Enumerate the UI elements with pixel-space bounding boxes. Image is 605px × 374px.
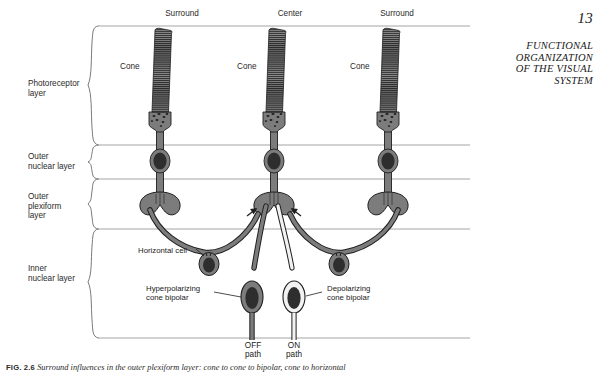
layer-label-outer-nuclear-line-1: Outer [28,152,75,162]
column-label-surround-right: Surround [380,9,414,18]
running-head-line-2: ORGANIZATION [443,52,593,64]
label-hyperpolarizing-line-2: cone bipolar [146,293,200,302]
running-head-line-1: FUNCTIONAL [443,40,593,52]
horizontal-cell-right-process [290,210,398,253]
label-off-path-line-2: path [245,350,261,359]
label-on-path: ON path [286,341,302,360]
layer-label-outer-plexiform-line-3: layer [28,211,61,221]
running-head-line-3: OF THE VISUAL [443,63,593,75]
layer-label-outer-nuclear-line-2: nuclear layer [28,162,75,172]
label-hyperpolarizing-cone-bipolar: Hyperpolarizing cone bipolar [146,284,200,302]
label-depolarizing-cone-bipolar: Depolarizing cone bipolar [327,284,370,302]
cone-right-outer-segment [380,28,400,112]
cone-surround-right [368,28,408,215]
label-on-path-line-2: path [286,350,302,359]
label-on-path-line-1: ON [286,341,302,350]
horizontal-cell-left-nucleus [203,257,215,272]
horizontal-cell-right [290,210,398,276]
layer-label-outer-nuclear: Outer nuclear layer [28,152,75,171]
layer-label-outer-plexiform-line-1: Outer [28,192,61,202]
cone-label-right: Cone [350,62,370,71]
layer-label-inner-nuclear-line-2: nuclear layer [28,274,75,284]
cone-left-inner-segment [149,112,171,132]
cone-right-nucleus [381,152,394,169]
figure-caption-text: Surround influences in the outer plexifo… [37,363,345,372]
label-off-path: OFF path [245,341,261,360]
bipolar-on-depolarizing [278,206,305,340]
figure-caption: FIG. 2.6 Surround influences in the oute… [6,363,596,374]
cone-center-inner-segment [263,112,285,132]
page-number: 13 [577,10,593,27]
cone-left-nucleus [153,152,166,169]
layer-label-photoreceptor-line-1: Photoreceptor [28,79,79,89]
cone-center-nucleus [267,152,280,169]
bipolar-on-nucleus [287,287,300,309]
cone-center-outer-segment [266,28,286,112]
leader-hyperpolarizing [214,292,241,297]
running-head: FUNCTIONAL ORGANIZATION OF THE VISUAL SY… [443,40,593,86]
brace-outer-nuclear [88,145,98,179]
cone-label-center: Cone [237,62,257,71]
brace-inner-nuclear [88,229,98,338]
column-label-center: Center [278,9,303,18]
label-depolarizing-line-1: Depolarizing [327,284,370,293]
layer-label-outer-plexiform: Outer plexiform layer [28,192,61,221]
layer-label-outer-plexiform-line-2: plexiform [28,202,61,212]
label-hyperpolarizing-line-1: Hyperpolarizing [146,284,200,293]
layer-label-inner-nuclear-line-1: Inner [28,264,75,274]
cone-right-inner-segment [377,112,399,132]
cone-left-outer-segment [152,28,172,112]
figure-page: 13 FUNCTIONAL ORGANIZATION OF THE VISUAL… [0,0,605,374]
leader-depolarizing [306,292,322,296]
layer-label-photoreceptor: Photoreceptor layer [28,79,79,98]
figure-caption-number: FIG. 2.6 [6,363,35,372]
layer-label-inner-nuclear: Inner nuclear layer [28,264,75,283]
label-horizontal-cell: Horizontal cell [138,246,187,255]
cone-center [254,28,294,215]
layer-label-photoreceptor-line-2: layer [28,89,79,99]
column-label-surround-left: Surround [165,9,199,18]
label-off-path-line-1: OFF [245,341,261,350]
label-depolarizing-line-2: cone bipolar [327,293,370,302]
bipolar-off-nucleus [245,287,258,309]
horizontal-cell-left [150,210,258,276]
cone-surround-left [140,28,180,215]
horizontal-cell-right-nucleus [333,257,345,272]
layer-braces [88,26,98,338]
brace-outer-plexiform [88,179,98,229]
label-horizontal-cell-line-1: Horizontal cell [138,246,187,255]
cone-label-left: Cone [120,62,140,71]
brace-photoreceptor [88,26,98,145]
running-head-line-4: SYSTEM [443,75,593,87]
